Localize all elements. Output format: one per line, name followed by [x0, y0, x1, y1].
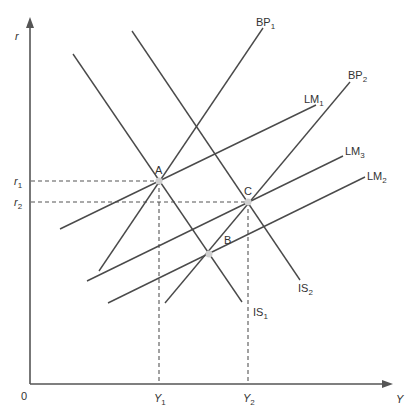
tick-Y1: Y1	[154, 392, 166, 407]
label-BP1: BP1	[256, 16, 276, 31]
point-C-marker	[245, 199, 252, 206]
label-IS2: IS2	[298, 282, 313, 297]
curve-BP2	[165, 82, 350, 303]
tick-Y2: Y2	[243, 392, 255, 407]
tick-r1: r1	[14, 175, 23, 190]
point-B-label: B	[224, 234, 231, 246]
origin-label: 0	[21, 390, 27, 402]
point-A-marker	[156, 178, 163, 185]
curve-LM1	[60, 105, 316, 229]
label-LM2: LM2	[367, 170, 387, 185]
x-axis-arrow-icon	[382, 380, 393, 388]
label-LM3: LM3	[345, 145, 365, 160]
x-axis-label: Y	[396, 393, 404, 405]
is-lm-bp-diagram: A C B BP1 BP2 LM1 LM3 LM2 IS2 IS1 r Y 0 …	[0, 0, 408, 413]
point-B-marker	[206, 251, 213, 258]
tick-r2: r2	[14, 196, 23, 211]
point-A-label: A	[155, 164, 163, 176]
label-IS1: IS1	[253, 306, 268, 321]
y-axis-arrow-icon	[26, 17, 34, 28]
point-C-label: C	[244, 185, 252, 197]
y-axis-label: r	[15, 30, 20, 42]
label-BP2: BP2	[348, 69, 368, 84]
curve-LM2	[108, 177, 365, 303]
